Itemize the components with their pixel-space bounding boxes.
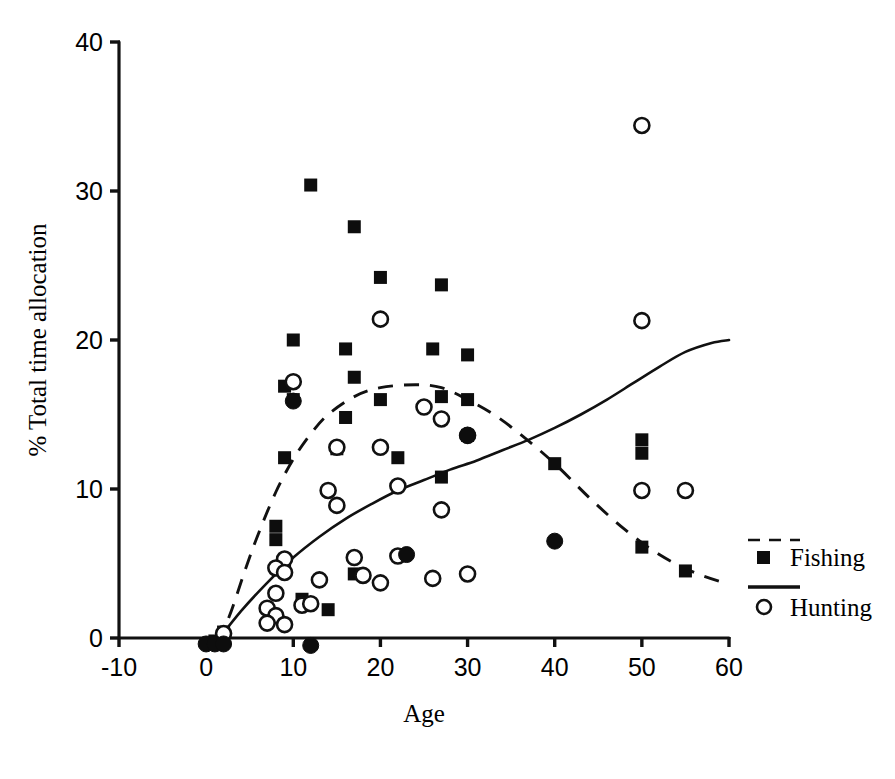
fishing-marker	[426, 342, 439, 355]
overlap-marker	[399, 547, 415, 563]
figure-container: 010203040 -100102030405060 Age % Total t…	[0, 0, 895, 779]
x-tick-label: 0	[199, 653, 213, 681]
overlap-marker	[460, 427, 476, 443]
y-tick-label: 40	[75, 28, 103, 56]
y-tick-label: 30	[75, 177, 103, 205]
overlap-marker	[285, 393, 301, 409]
hunting-data-points	[216, 118, 693, 641]
hunting-marker	[329, 498, 344, 513]
hunting-marker	[260, 616, 275, 631]
hunting-marker	[434, 502, 449, 517]
hunting-marker	[634, 118, 649, 133]
fishing-marker	[679, 564, 692, 577]
hunting-marker	[303, 596, 318, 611]
fishing-marker	[322, 603, 335, 616]
y-axis-title: % Total time allocation	[24, 223, 51, 457]
x-axis-tick-labels: -100102030405060	[101, 653, 743, 681]
legend-fishing-label: Fishing	[790, 544, 866, 571]
hunting-marker	[312, 572, 327, 587]
legend-hunting-marker	[757, 600, 771, 614]
fishing-marker	[374, 393, 387, 406]
hunting-marker	[356, 568, 371, 583]
legend-hunting-label: Hunting	[790, 594, 872, 621]
fishing-marker	[339, 411, 352, 424]
fishing-marker	[461, 348, 474, 361]
x-tick-label: 20	[367, 653, 395, 681]
hunting-marker	[321, 483, 336, 498]
hunting-marker	[390, 479, 405, 494]
legend: Fishing Hunting	[748, 540, 872, 621]
hunting-marker	[425, 571, 440, 586]
hunting-marker	[634, 313, 649, 328]
fishing-marker	[635, 541, 648, 554]
fishing-marker	[435, 278, 448, 291]
hunting-marker	[434, 411, 449, 426]
fishing-marker	[374, 271, 387, 284]
y-tick-label: 10	[75, 475, 103, 503]
fishing-marker	[435, 390, 448, 403]
hunting-marker	[347, 550, 362, 565]
fishing-marker	[461, 393, 474, 406]
hunting-marker	[329, 440, 344, 455]
hunting-marker	[373, 575, 388, 590]
hunting-marker	[286, 374, 301, 389]
fishing-marker	[348, 371, 361, 384]
fishing-marker	[304, 179, 317, 192]
fishing-marker	[635, 433, 648, 446]
scatter-plot: 010203040 -100102030405060 Age % Total t…	[0, 0, 895, 779]
hunting-marker	[678, 483, 693, 498]
x-axis-title: Age	[403, 700, 445, 727]
hunting-marker	[634, 483, 649, 498]
hunting-marker	[373, 312, 388, 327]
y-tick-label: 0	[89, 624, 103, 652]
hunting-marker	[417, 400, 432, 415]
fishing-marker	[269, 533, 282, 546]
fishing-marker	[339, 342, 352, 355]
fishing-marker	[287, 334, 300, 347]
y-axis-tick-labels: 010203040	[75, 28, 103, 652]
x-tick-label: 40	[541, 653, 569, 681]
overlap-marker	[303, 637, 319, 653]
hunting-marker	[460, 566, 475, 581]
overlap-marker	[216, 636, 232, 652]
fishing-marker	[635, 447, 648, 460]
x-tick-label: 30	[454, 653, 482, 681]
fishing-marker	[435, 471, 448, 484]
fishing-marker	[548, 457, 561, 470]
y-tick-label: 20	[75, 326, 103, 354]
hunting-marker	[277, 617, 292, 632]
x-tick-label: -10	[101, 653, 137, 681]
x-tick-label: 10	[279, 653, 307, 681]
hunting-marker	[373, 440, 388, 455]
legend-fishing-marker	[757, 551, 770, 564]
hunting-marker	[268, 586, 283, 601]
x-tick-label: 50	[628, 653, 656, 681]
fishing-marker	[269, 520, 282, 533]
overlapping-data-points	[198, 393, 563, 653]
x-tick-label: 60	[715, 653, 743, 681]
hunting-marker	[277, 565, 292, 580]
fishing-marker	[348, 220, 361, 233]
fishing-marker	[391, 451, 404, 464]
fishing-marker	[278, 451, 291, 464]
overlap-marker	[547, 533, 563, 549]
